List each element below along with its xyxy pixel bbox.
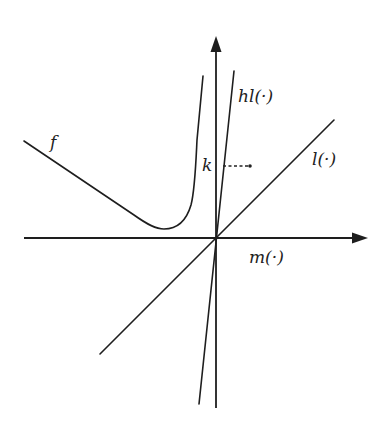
diagram-canvas: f hl(·) l(·) m(·) k xyxy=(0,0,385,421)
label-k: k xyxy=(202,155,212,175)
k-point xyxy=(248,164,252,168)
label-f: f xyxy=(48,132,59,152)
y-axis-arrow xyxy=(211,36,222,52)
x-axis-arrow xyxy=(352,233,368,244)
f-curve xyxy=(24,76,203,229)
label-m: m(·) xyxy=(249,247,284,267)
label-l: l(·) xyxy=(312,149,336,169)
label-hl: hl(·) xyxy=(238,86,273,106)
